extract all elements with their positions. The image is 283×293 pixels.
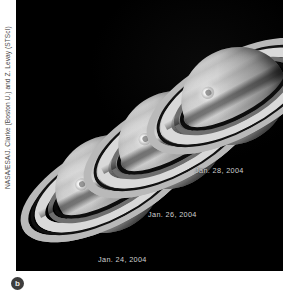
figure-container: NASA/ESA/J. Clarke (Boston U.) and Z. Le… [0,0,283,293]
date-label-jan-26: Jan. 26, 2004 [148,210,197,219]
saturn-observation-jan-28 [136,0,283,194]
date-label-jan-24: Jan. 24, 2004 [98,255,147,264]
image-credit: NASA/ESA/J. Clarke (Boston U.) and Z. Le… [2,13,14,189]
date-label-jan-28: Jan. 28, 2004 [195,166,244,175]
saturn-image-panel: Jan. 28, 2004 Jan. 26, 2004 Jan. 24, 200… [16,0,283,271]
panel-letter-badge: b [11,277,24,290]
